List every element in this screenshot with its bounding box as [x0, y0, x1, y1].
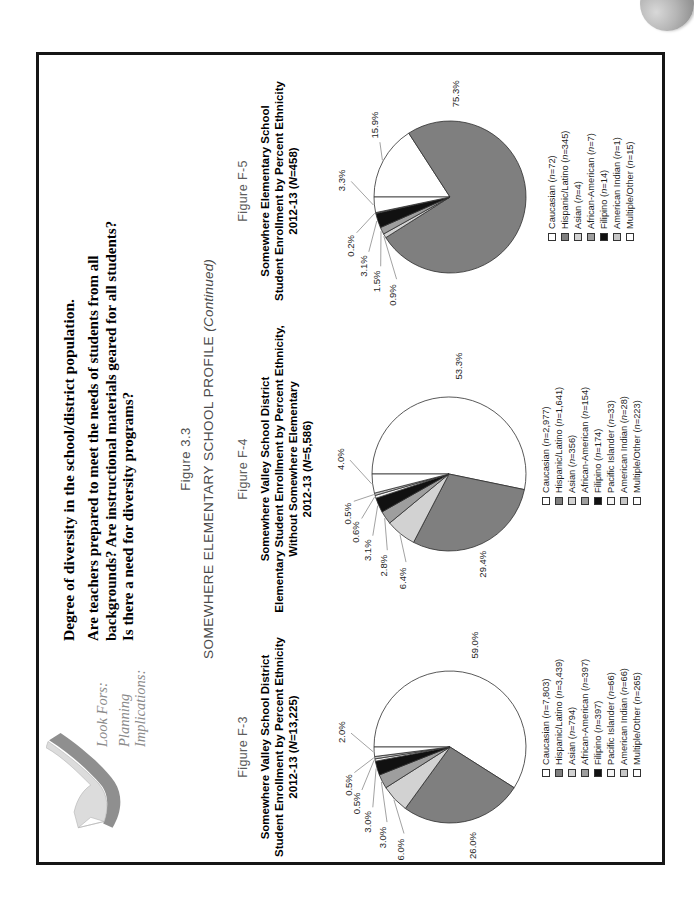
pie-percent-label: 6.0%	[395, 838, 406, 860]
legend-label: Asian (n=794)	[566, 707, 579, 765]
figure-title-line: 2012-13 (N=5,586)	[300, 309, 314, 629]
label-leader-line	[362, 760, 374, 790]
pie-chart: 59.0%26.0%6.0%3.0%3.0%0.5%0.5%2.0%	[335, 632, 565, 862]
figure-caption: Figure F-3	[236, 617, 250, 877]
legend-swatch	[574, 234, 582, 242]
legend-swatch	[581, 770, 589, 778]
legend-label: Filipino (n=397)	[592, 701, 605, 765]
legend-swatch	[587, 234, 595, 242]
legend-label: Asian (n=4)	[572, 181, 585, 229]
legend-swatch	[620, 498, 628, 506]
legend-label: American Indian (n=1)	[611, 137, 624, 229]
header-lead: Degree of diversity in the school/distri…	[60, 299, 78, 641]
legend-label: Filipino (n=174)	[592, 429, 605, 493]
header-questions: Are teachers prepared to meet the needs …	[85, 221, 138, 641]
legend-swatch	[607, 770, 615, 778]
pie-percent-label: 6.4%	[397, 567, 408, 589]
legend-swatch	[542, 498, 550, 506]
pie-percent-label: 3.1%	[362, 539, 373, 561]
legend-swatch	[581, 498, 589, 506]
figure-title: Somewhere Valley School DistrictElementa…	[258, 309, 314, 629]
figure-caption: Figure F-4	[236, 339, 250, 599]
pie-percent-label: 53.3%	[453, 352, 464, 379]
legend-label: Asian (n=356)	[566, 435, 579, 493]
legend-swatch	[594, 498, 602, 506]
question-line: Are teachers prepared to meet the needs …	[85, 221, 103, 641]
legend-label: Filipino (n=14)	[598, 170, 611, 229]
label-leader-line	[400, 535, 406, 562]
figure-title-line: 2012-13 (N=458)	[286, 31, 300, 351]
legend-label: African-American (n=397)	[579, 659, 592, 765]
label-leader-line	[369, 221, 377, 252]
label-leader-line	[354, 495, 374, 502]
label-leader-line	[385, 518, 388, 550]
pie-percent-label: 4.0%	[335, 448, 346, 470]
pie-percent-label: 0.5%	[343, 774, 354, 796]
legend-swatch	[568, 770, 576, 778]
profile-title: SOMEWHERE ELEMENTARY SCHOOL PROFILE (Con…	[201, 59, 216, 859]
label-leader-line	[362, 497, 375, 518]
figure-title: Somewhere Valley School DistrictStudent …	[258, 587, 300, 907]
legend-label: American Indian (n=66)	[618, 668, 631, 765]
pie-percent-label: 75.3%	[450, 80, 461, 107]
profile-title-text: SOMEWHERE ELEMENTARY SCHOOL PROFILE	[201, 336, 216, 659]
legend-label: Caucasian (n=2,977)	[540, 406, 553, 493]
pie-percent-label: 15.9%	[369, 111, 380, 138]
label-leader-line	[373, 769, 376, 808]
pie-percent-label: 2.0%	[336, 721, 347, 743]
label-leader-line	[373, 506, 378, 536]
legend-label: Pacific Islander (n=66)	[605, 672, 618, 765]
pie-percent-label: 0.2%	[345, 234, 356, 256]
legend-label: Multiple/Other (n=223)	[631, 400, 644, 493]
legend-label: Multiple/Other (n=265)	[631, 672, 644, 765]
figure-title: Somewhere Elementary SchoolStudent Enrol…	[258, 31, 300, 351]
figure-title-line: Somewhere Valley School District	[258, 309, 272, 629]
figure-number: Figure 3.3	[178, 59, 193, 859]
pie-percent-label: 0.9%	[387, 284, 398, 306]
legend-swatch	[600, 234, 608, 242]
legend-label: Caucasian (n=72)	[546, 155, 559, 229]
pie-chart: 53.3%29.4%6.4%2.8%3.1%0.6%0.5%4.0%	[334, 359, 564, 589]
planning-line: Planning	[116, 670, 132, 747]
pie-chart: 15.9%75.3%0.9%1.5%3.1%0.2%3.3%	[335, 82, 565, 312]
legend-swatch	[561, 234, 569, 242]
figure-title-line: Student Enrollment by Percent Ethnicity	[272, 587, 286, 907]
label-leader-line	[351, 733, 373, 752]
legend-swatch	[542, 770, 550, 778]
legend-label: Caucasian (n=7,803)	[540, 678, 553, 765]
figure-title-line: Somewhere Valley School District	[258, 587, 272, 907]
question-line: Is there a need for diversity programs?	[120, 221, 138, 641]
legend-swatch	[633, 498, 641, 506]
legend-swatch	[607, 498, 615, 506]
label-leader-line	[357, 213, 375, 233]
legend-swatch	[568, 498, 576, 506]
pie-percent-label: 3.0%	[362, 810, 373, 832]
figure-caption: Figure F-5	[236, 61, 250, 321]
pie-percent-label: 2.8%	[378, 554, 389, 576]
implications-line: Implications:	[132, 670, 148, 747]
label-leader-line	[354, 758, 373, 773]
pie-percent-label: 26.0%	[467, 831, 478, 858]
pie-percent-label: 59.0%	[469, 631, 480, 658]
pie-percent-label: 3.3%	[336, 169, 347, 191]
pie-percent-label: 29.4%	[477, 550, 488, 577]
legend-label: African-American (n=154)	[579, 387, 592, 493]
pie-percent-label: 0.5%	[342, 502, 353, 524]
legend-swatch	[620, 770, 628, 778]
pie-percent-label: 3.1%	[358, 255, 369, 277]
figure-title-line: Without Somewhere Elementary	[286, 309, 300, 629]
profile-title-continued: (Continued)	[201, 259, 216, 332]
legend-swatch	[555, 498, 563, 506]
lookfors-line: Look Fors:	[94, 670, 110, 747]
legend-swatch	[548, 234, 556, 242]
legend-label: Pacific Islander (n=33)	[605, 400, 618, 493]
legend-label: American Indian (n=28)	[618, 396, 631, 493]
legend-label: Hispanic/Latino (n=345)	[559, 131, 572, 229]
label-leader-line	[351, 181, 373, 205]
label-leader-line	[380, 142, 383, 160]
legend-swatch	[633, 770, 641, 778]
legend-label: Multiple/Other (n=15)	[624, 141, 637, 229]
figure-title-line: Somewhere Elementary School	[258, 31, 272, 351]
